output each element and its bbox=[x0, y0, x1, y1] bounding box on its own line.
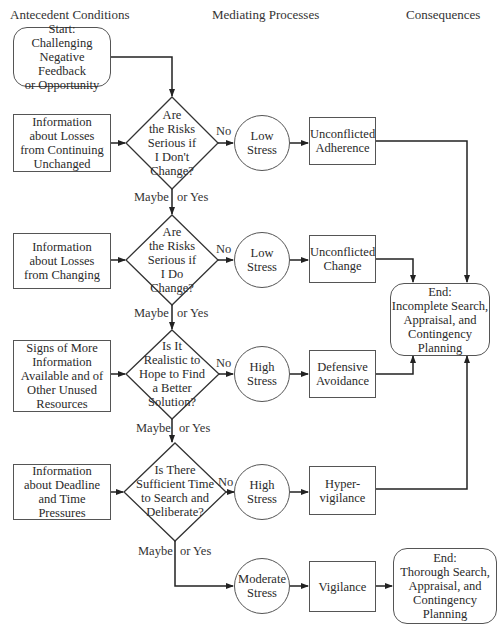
start-node: Start: Challenging Negative Feedback or … bbox=[13, 27, 111, 87]
stress-circle-high-1: High Stress bbox=[234, 346, 290, 402]
antecedent-box-losses-unchanged: Information about Losses from Continuing… bbox=[13, 114, 111, 172]
antecedent-box-deadline: Information about Deadline and Time Pres… bbox=[13, 464, 111, 520]
pattern-defensive-avoidance: Defensive Avoidance bbox=[309, 350, 376, 398]
stress-circle-low-1: Low Stress bbox=[234, 115, 290, 171]
branch-label-no-2: No bbox=[216, 242, 231, 257]
decision-question-4: Is There Sufficient Time to Search and D… bbox=[124, 455, 226, 527]
pattern-vigilance: Vigilance bbox=[309, 561, 376, 612]
branch-label-maybe-3: Maybe bbox=[136, 421, 171, 436]
stress-circle-moderate: Moderate Stress bbox=[234, 558, 290, 614]
branch-label-or-yes-4: or Yes bbox=[180, 544, 211, 559]
branch-label-or-yes-1: or Yes bbox=[177, 190, 208, 205]
branch-label-no-3: No bbox=[216, 356, 231, 371]
end-incomplete-search: End: Incomplete Search, Appraisal, and C… bbox=[390, 283, 490, 356]
branch-label-no-1: No bbox=[216, 124, 231, 139]
branch-label-no-4: No bbox=[218, 475, 233, 490]
header-antecedent-conditions: Antecedent Conditions bbox=[10, 7, 130, 23]
stress-circle-low-2: Low Stress bbox=[234, 232, 290, 288]
branch-label-maybe-1: Maybe bbox=[134, 190, 169, 205]
end-thorough-search: End: Thorough Search, Appraisal, and Con… bbox=[393, 548, 497, 624]
header-mediating-processes: Mediating Processes bbox=[212, 7, 319, 23]
antecedent-box-losses-changing: Information about Losses from Changing bbox=[13, 233, 111, 289]
branch-label-or-yes-3: or Yes bbox=[179, 421, 210, 436]
pattern-unconflicted-adherence: Unconflicted Adherence bbox=[309, 117, 376, 165]
decision-question-1: Are the Risks Serious if I Don't Change? bbox=[130, 103, 214, 183]
header-consequences: Consequences bbox=[406, 7, 480, 23]
branch-label-maybe-4: Maybe bbox=[138, 544, 173, 559]
branch-label-maybe-2: Maybe bbox=[134, 306, 169, 321]
pattern-hypervigilance: Hyper- vigilance bbox=[309, 466, 376, 515]
decision-question-2: Are the Risks Serious if I Do Change? bbox=[130, 220, 214, 300]
decision-question-3: Is It Realistic to Hope to Find a Better… bbox=[126, 334, 218, 414]
stress-circle-high-2: High Stress bbox=[234, 464, 290, 520]
antecedent-box-more-information: Signs of More Information Available and … bbox=[13, 340, 111, 412]
pattern-unconflicted-change: Unconflicted Change bbox=[309, 235, 376, 283]
branch-label-or-yes-2: or Yes bbox=[177, 306, 208, 321]
